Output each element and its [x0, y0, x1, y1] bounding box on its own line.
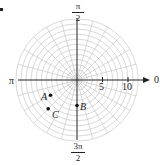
- label-pi: π: [9, 76, 14, 86]
- point-b: [75, 104, 79, 108]
- tick-label-5: 5: [99, 82, 104, 92]
- point-label-a: A: [41, 92, 47, 102]
- arrow-right-icon: [143, 77, 150, 83]
- label-half-pi: π 2: [72, 2, 84, 23]
- point-label-c: C: [52, 110, 59, 120]
- point-a: [49, 94, 53, 98]
- point-label-b: B: [80, 102, 86, 112]
- label-zero: 0: [154, 75, 159, 85]
- tick-label-10: 10: [122, 82, 132, 92]
- label-three-half-pi: 3π 2: [71, 142, 85, 163]
- problem-marker: [0, 8, 3, 11]
- point-c: [46, 107, 50, 111]
- polar-diagram: π 2 3π 2 π 0 5 10 A B C: [0, 0, 164, 166]
